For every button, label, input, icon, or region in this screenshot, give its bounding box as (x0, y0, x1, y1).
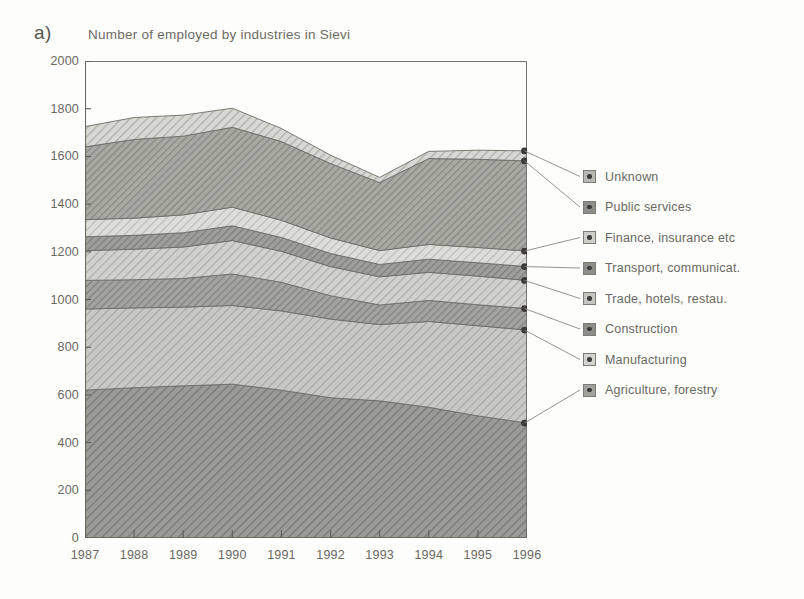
y-tick-label: 1600 (50, 149, 79, 163)
x-tick-label: 1988 (120, 548, 149, 562)
plot-area (85, 61, 527, 538)
legend-swatch-icon (583, 201, 596, 214)
legend-item[interactable]: Unknown (583, 168, 659, 185)
legend-swatch-icon (583, 292, 596, 305)
legend-item[interactable]: Agriculture, forestry (583, 382, 718, 399)
legend-label: Unknown (605, 170, 659, 184)
leader-line (525, 267, 581, 268)
legend-item[interactable]: Transport, communicat. (583, 260, 740, 277)
legend-label: Construction (605, 322, 678, 336)
legend-label: Public services (605, 200, 691, 214)
y-tick-label: 400 (58, 436, 79, 450)
x-tick-label: 1990 (218, 548, 247, 562)
legend-item[interactable]: Manufacturing (583, 351, 687, 368)
chart-title: Number of employed by industries in Siev… (88, 27, 350, 42)
legend-swatch-icon (583, 323, 596, 336)
y-tick-label: 600 (58, 388, 79, 402)
stacked-area-plot (85, 61, 527, 538)
x-tick-label: 1993 (365, 548, 394, 562)
y-tick-label: 1000 (50, 293, 79, 307)
legend-label: Manufacturing (605, 353, 687, 367)
y-tick-label: 0 (72, 531, 79, 545)
x-tick-label: 1991 (267, 548, 296, 562)
x-tick-label: 1995 (464, 548, 493, 562)
legend-item[interactable]: Construction (583, 321, 678, 338)
area-bands (85, 108, 527, 538)
legend-label: Trade, hotels, restau. (605, 292, 727, 306)
legend-item[interactable]: Public services (583, 199, 691, 216)
y-tick-label: 1400 (50, 197, 79, 211)
x-tick-label: 1994 (414, 548, 443, 562)
legend-swatch-icon (583, 384, 596, 397)
panel-label: a) (34, 22, 52, 44)
legend-swatch-icon (583, 231, 596, 244)
y-axis-ticks: 2000180016001400120010008006004002000 (22, 61, 79, 538)
leader-line (525, 330, 581, 359)
legend-swatch-icon (583, 170, 596, 183)
leader-line (525, 309, 581, 329)
legend-swatch-icon (583, 353, 596, 366)
legend-swatch-icon (583, 262, 596, 275)
leader-line (525, 161, 581, 207)
legend-label: Agriculture, forestry (605, 383, 718, 397)
y-tick-label: 1200 (50, 245, 79, 259)
leader-line (525, 390, 581, 423)
legend-item[interactable]: Finance, insurance etc (583, 229, 735, 246)
x-tick-label: 1996 (513, 548, 542, 562)
legend-label: Finance, insurance etc (605, 231, 735, 245)
x-tick-label: 1987 (71, 548, 100, 562)
legend-item[interactable]: Trade, hotels, restau. (583, 290, 727, 307)
x-tick-label: 1989 (169, 548, 198, 562)
x-axis-ticks: 1987198819891990199119921993199419951996 (85, 548, 527, 570)
legend-label: Transport, communicat. (605, 261, 740, 275)
leader-line (525, 238, 581, 252)
leader-line (525, 151, 581, 177)
y-tick-label: 200 (58, 483, 79, 497)
y-tick-label: 800 (58, 340, 79, 354)
y-tick-label: 1800 (50, 102, 79, 116)
y-tick-label: 2000 (50, 54, 79, 68)
x-tick-label: 1992 (316, 548, 345, 562)
figure-container: a) Number of employed by industries in S… (0, 0, 804, 599)
leader-line (525, 280, 581, 298)
